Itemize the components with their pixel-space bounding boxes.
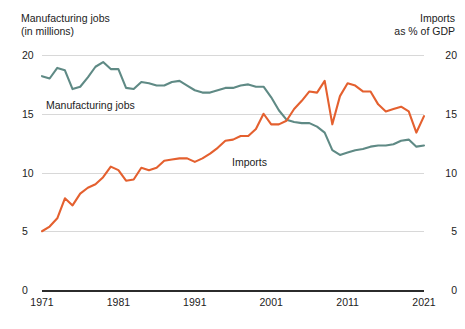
- inline-label-manufacturing-jobs: Manufacturing jobs: [46, 99, 135, 111]
- chart-container: Manufacturing jobs(in millions) Importsa…: [0, 0, 465, 329]
- inline-label-imports: Imports: [232, 156, 267, 168]
